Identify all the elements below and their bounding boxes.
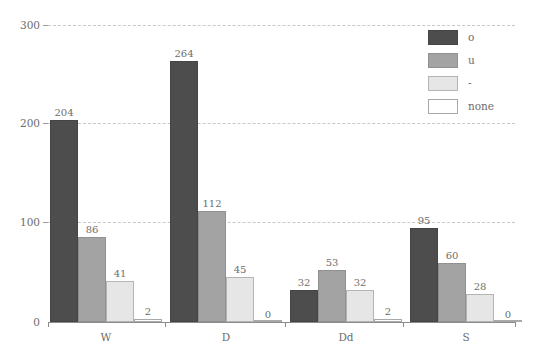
x-axis-line <box>48 322 515 323</box>
bar-S-o[interactable] <box>410 228 438 322</box>
bar-value-D-none: 0 <box>248 309 288 320</box>
legend-item-o[interactable]: o <box>428 28 528 51</box>
bar-value-S-u: 60 <box>432 250 472 261</box>
bar-value-W-none: 2 <box>128 306 168 317</box>
legend-swatch-icon-u <box>428 53 458 68</box>
legend-swatch-icon-o <box>428 30 458 45</box>
bar-value-Dd-o: 32 <box>284 277 324 288</box>
bar-value-W-u: 86 <box>72 224 112 235</box>
bar-W-o[interactable] <box>50 120 78 322</box>
x-tick-1 <box>165 322 166 327</box>
x-tick-2 <box>285 322 286 327</box>
x-group-label-S: S <box>436 331 496 343</box>
legend-label-dash: - <box>468 76 472 91</box>
x-group-label-D: D <box>196 331 256 343</box>
bar-value-W-dash: 41 <box>100 268 140 279</box>
bar-value-D-o: 264 <box>164 48 204 59</box>
x-tick-0 <box>48 322 49 327</box>
legend-label-none: none <box>468 99 494 114</box>
bar-value-D-dash: 45 <box>220 264 260 275</box>
y-tick-label-100: 100 <box>8 216 40 228</box>
legend-swatch-icon-dash <box>428 76 458 91</box>
legend-label-o: o <box>468 30 474 45</box>
bar-value-Dd-none: 2 <box>368 306 408 317</box>
y-tick-label-200: 200 <box>8 117 40 129</box>
bar-W-u[interactable] <box>78 237 106 322</box>
bar-value-S-o: 95 <box>404 215 444 226</box>
x-group-label-Dd: Dd <box>316 331 376 343</box>
bar-value-Dd-u: 53 <box>312 257 352 268</box>
bar-S-u[interactable] <box>438 263 466 322</box>
bar-value-S-dash: 28 <box>460 281 500 292</box>
legend: o u - none <box>428 28 528 120</box>
legend-item-u[interactable]: u <box>428 51 528 74</box>
bar-value-D-u: 112 <box>192 198 232 209</box>
x-group-label-W: W <box>76 331 136 343</box>
bar-chart: 300 200 100 0 <box>0 0 537 363</box>
bar-value-S-none: 0 <box>488 309 528 320</box>
legend-item-dash[interactable]: - <box>428 74 528 97</box>
legend-item-none[interactable]: none <box>428 97 528 120</box>
x-tick-4 <box>515 322 516 327</box>
y-tick-label-300: 300 <box>8 19 40 31</box>
bar-D-o[interactable] <box>170 61 198 322</box>
bar-value-Dd-dash: 32 <box>340 277 380 288</box>
y-tick-label-0: 0 <box>8 316 40 328</box>
x-tick-3 <box>403 322 404 327</box>
bar-value-W-o: 204 <box>44 107 84 118</box>
legend-swatch-icon-none <box>428 99 458 114</box>
legend-label-u: u <box>468 53 475 68</box>
bar-Dd-o[interactable] <box>290 290 318 322</box>
